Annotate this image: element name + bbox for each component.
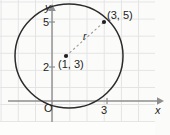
y-tick-label-5: 5 (43, 17, 49, 28)
y-tick-label-2: 2 (43, 62, 49, 73)
x-tick-label-3: 3 (101, 105, 107, 116)
y-axis-label: y (45, 2, 51, 13)
x-axis-label: x (155, 105, 161, 116)
diagram-vector-layer (0, 0, 170, 135)
circle-point-dot (102, 20, 106, 24)
circle-diagram-figure: y x O 5 2 3 (1, 3) (3, 5) r (0, 0, 170, 135)
point-coordinate-label: (3, 5) (107, 10, 133, 21)
center-coordinate-label: (1, 3) (58, 59, 84, 70)
origin-label: O (44, 103, 53, 114)
x-axis (8, 97, 164, 105)
radius-label: r (83, 32, 86, 42)
